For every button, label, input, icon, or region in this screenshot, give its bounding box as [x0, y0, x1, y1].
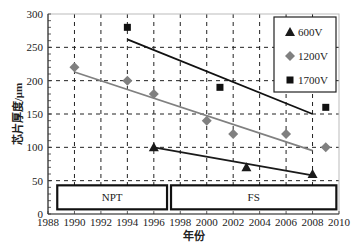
- x-tick-label: 2006: [275, 216, 298, 228]
- legend-marker-1700v-icon: [287, 77, 294, 84]
- legend-label-600v: 600V: [298, 26, 323, 38]
- y-axis-label: 芯片厚度/μm: [11, 83, 24, 145]
- data-point-1700v: [216, 84, 223, 91]
- era-label-npt: NPT: [102, 191, 123, 203]
- x-tick-label: 2008: [302, 216, 325, 228]
- x-tick-label: 1994: [116, 216, 139, 228]
- data-point-1700v: [322, 104, 329, 111]
- y-tick-label: 250: [27, 41, 44, 53]
- era-annotations: NPTFS: [57, 185, 336, 209]
- x-tick-label: 1998: [169, 216, 192, 228]
- y-tick-label: 150: [27, 108, 44, 120]
- data-point-1200v: [281, 129, 291, 139]
- legend-label-1200v: 1200V: [298, 50, 328, 62]
- data-point-600v: [149, 142, 159, 151]
- chart: NPTFS 1988199019921994199619982000200220…: [0, 0, 355, 250]
- x-tick-label: 1996: [143, 216, 166, 228]
- x-tick-label: 2002: [222, 216, 244, 228]
- data-point-1700v: [124, 24, 131, 31]
- x-tick-label: 1990: [63, 216, 86, 228]
- y-tick-label: 100: [27, 141, 44, 153]
- scatter-chart: NPTFS 1988199019921994199619982000200220…: [0, 0, 355, 250]
- x-tick-label: 2000: [196, 216, 219, 228]
- era-label-fs: FS: [248, 191, 260, 203]
- y-tick-label: 200: [27, 75, 44, 87]
- data-point-1200v: [321, 142, 331, 152]
- legend: 600V1200V1700V: [274, 17, 336, 92]
- x-tick-label: 2010: [328, 216, 351, 228]
- data-point-600v: [308, 169, 318, 178]
- data-point-1200v: [122, 76, 132, 86]
- x-tick-label: 2004: [249, 216, 272, 228]
- data-point-1200v: [69, 62, 79, 72]
- y-tick-label: 0: [38, 208, 44, 220]
- x-axis-label: 年份: [183, 229, 206, 242]
- y-tick-label: 50: [32, 175, 44, 187]
- legend-label-1700v: 1700V: [298, 74, 328, 86]
- y-tick-label: 300: [27, 8, 44, 20]
- data-point-1200v: [228, 129, 238, 139]
- x-tick-label: 1992: [90, 216, 112, 228]
